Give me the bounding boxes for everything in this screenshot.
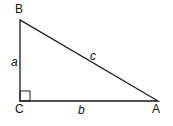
- triangle-outline: [20, 20, 158, 101]
- side-label-c: c: [90, 50, 96, 62]
- right-angle-marker: [20, 91, 30, 101]
- side-label-a: a: [11, 56, 18, 68]
- vertex-label-a: A: [152, 103, 160, 115]
- right-triangle-figure: [0, 0, 173, 126]
- vertex-label-b: B: [15, 3, 23, 15]
- side-label-b: b: [78, 104, 85, 116]
- vertex-label-c: C: [15, 103, 24, 115]
